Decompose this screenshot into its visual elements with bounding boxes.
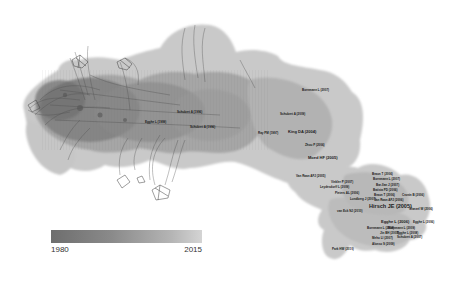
legend-max-year: 2015 xyxy=(184,245,202,254)
node-label: Meho LI (2007) xyxy=(372,237,393,240)
legend-min-year: 1980 xyxy=(51,245,69,254)
node-label: Glanzel W (2006) xyxy=(409,208,433,211)
edge-texture xyxy=(40,70,270,150)
node-label: Leydesdorff L (2009) xyxy=(320,186,349,189)
node-label: Schubert A (1996) xyxy=(177,111,202,114)
node-label: van Eck NJ (2010) xyxy=(337,210,363,213)
node-label: Pieters AL (2006) xyxy=(335,192,359,195)
node-label: Bornmann L (2007) xyxy=(373,178,400,181)
node-label: Braun T (2006) xyxy=(374,194,395,197)
node-label: Alonso S (2009) xyxy=(372,243,395,246)
node-label: Braun T (2006) xyxy=(372,173,393,176)
node-label: Van Raan AFJ (2005) xyxy=(296,175,325,178)
node-label: Schubert A (2007) xyxy=(397,236,422,239)
node-label: Schubert A (2009) xyxy=(280,113,305,116)
node-label: Lundberg J (2007) xyxy=(350,198,376,201)
node-label: Vinkler P (2007) xyxy=(331,181,353,184)
node-label: Bar-Ilan J (2007) xyxy=(376,184,399,187)
year-gradient-bar xyxy=(51,230,202,243)
node-label: Zhou P (2006) xyxy=(305,144,325,147)
node-label: Egghe L (1999) xyxy=(145,121,166,124)
node-label: Cronin B (2006) xyxy=(402,194,424,197)
node-label: Schubert A (1996) xyxy=(190,126,215,129)
node-label: Park HW (2010) xyxy=(332,248,354,251)
node-label: Bornmann L (2009) xyxy=(388,227,415,230)
node-label: Ray PM (1997) xyxy=(258,132,278,135)
node-label: Moed HF (2005) xyxy=(308,156,338,160)
node-label: Egghe L (2006) xyxy=(381,220,409,224)
node-label: King DA (2004) xyxy=(288,130,316,134)
year-legend: 1980 2015 xyxy=(51,230,202,255)
node-label: Batista PD (2006) xyxy=(373,189,398,192)
node-label: Van Raan AFJ (2006) xyxy=(374,199,403,202)
node-label: Bornmann L (2007) xyxy=(302,89,329,92)
node-label: Hirsch JE (2005) xyxy=(369,204,412,210)
node-label: Egghe L (2006) xyxy=(413,221,434,224)
